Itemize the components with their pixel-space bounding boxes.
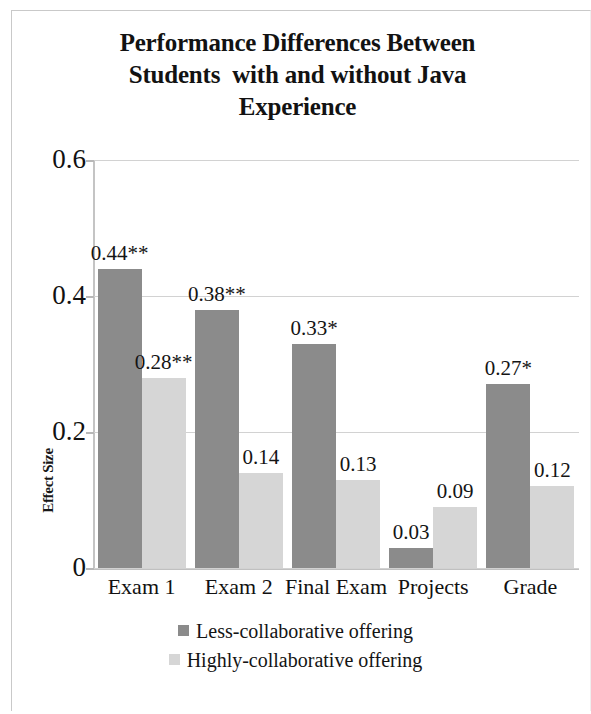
gridline: [93, 160, 579, 161]
plot-area: 0.44**0.28**0.38**0.140.33*0.130.030.090…: [93, 160, 579, 568]
x-axis-tick-label: Grade: [464, 574, 591, 600]
bar-value-label: 0.33*: [278, 318, 350, 339]
chart-legend: Less-collaborative offeringHighly-collab…: [0, 616, 591, 674]
legend-label: Less-collaborative offering: [196, 620, 413, 642]
bar: [336, 480, 380, 568]
bar-value-label: 0.38**: [181, 284, 253, 305]
legend-swatch-icon: [178, 625, 189, 636]
chart-figure: Performance Differences Between Students…: [0, 0, 591, 714]
y-axis-tick-mark: [86, 160, 94, 162]
bar: [98, 269, 142, 568]
y-axis-tick-label: 0.4: [20, 282, 86, 309]
bar: [142, 378, 186, 568]
y-axis-title: Effect Size: [40, 426, 57, 536]
y-axis-tick-labels: 00.20.40.6: [8, 0, 86, 714]
bar-value-label: 0.44**: [84, 243, 156, 264]
legend-label: Highly-collaborative offering: [187, 649, 423, 671]
y-axis-tick-mark: [86, 568, 94, 570]
bar-value-label: 0.27*: [472, 358, 544, 379]
bar-value-label: 0.28**: [128, 352, 200, 373]
legend-item[interactable]: Less-collaborative offering: [0, 616, 591, 645]
bar-value-label: 0.09: [419, 481, 491, 502]
y-axis-tick-label: 0.6: [20, 146, 86, 173]
bar: [433, 507, 477, 568]
bar: [195, 310, 239, 568]
bar: [530, 486, 574, 568]
bar: [239, 473, 283, 568]
chart-title: Performance Differences Between Students…: [55, 27, 540, 123]
bar: [389, 548, 433, 568]
y-axis-tick-mark: [86, 296, 94, 298]
legend-swatch-icon: [169, 654, 180, 665]
legend-item[interactable]: Highly-collaborative offering: [0, 645, 591, 674]
y-axis-tick-mark: [86, 432, 94, 434]
gridline: [93, 296, 579, 297]
bar-value-label: 0.14: [225, 447, 297, 468]
bar-value-label: 0.13: [322, 454, 394, 475]
gridline: [93, 568, 579, 569]
bar-value-label: 0.12: [516, 460, 588, 481]
